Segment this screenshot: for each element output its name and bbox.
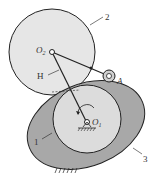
roller-a-pin: [107, 74, 112, 79]
leader-3: [133, 148, 142, 154]
label-part-1: 1: [34, 137, 39, 147]
mechanism-diagram: 2 O2 H A 1 O1 3: [0, 0, 158, 182]
leader-2: [90, 17, 103, 25]
label-h: H: [37, 71, 44, 81]
contact-point: [90, 67, 93, 70]
label-part-2: 2: [105, 12, 110, 22]
label-part-3: 3: [143, 154, 148, 164]
label-a: A: [116, 76, 123, 86]
pivot-o2: [50, 50, 55, 55]
